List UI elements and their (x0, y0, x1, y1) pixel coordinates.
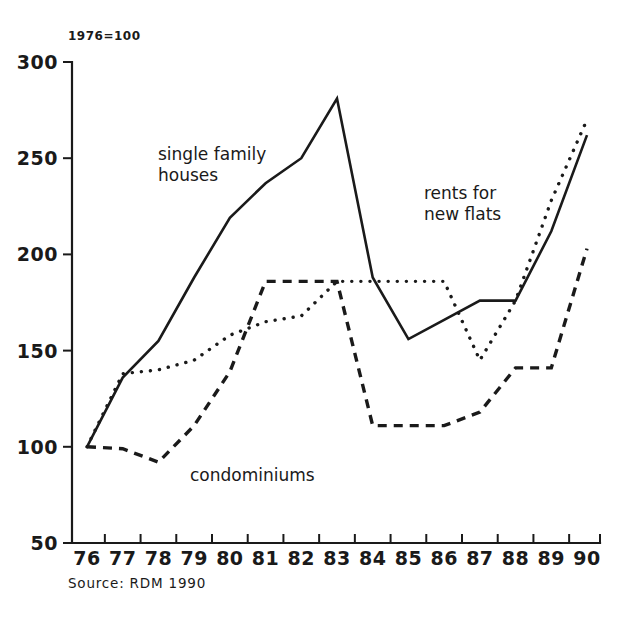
annotation-condominiums: condominiums (190, 465, 315, 485)
x-axis-tick-label: 88 (502, 547, 529, 569)
x-axis-tick-label: 76 (73, 547, 100, 569)
x-axis-tick-label: 84 (359, 547, 386, 569)
x-axis-tick-label: 90 (573, 547, 600, 569)
y-axis-tick-labels: 50100150200250300 (17, 51, 58, 554)
annotation-single-family-houses-line1: single family (158, 144, 266, 164)
x-axis-ticks (72, 534, 600, 543)
source-label: Source: RDM 1990 (68, 575, 206, 591)
x-axis-tick-label: 83 (323, 547, 350, 569)
x-axis-tick-label: 89 (538, 547, 565, 569)
x-axis-tick-label: 78 (145, 547, 172, 569)
x-axis-tick-label: 85 (395, 547, 422, 569)
y-axis-tick-label: 200 (17, 243, 58, 265)
series-line-condominiums (87, 249, 587, 463)
y-axis-tick-label: 150 (17, 340, 58, 362)
chart-container: 1976=100 50100150200250300 7677787980818… (0, 0, 620, 621)
y-axis-tick-label: 300 (17, 51, 58, 73)
x-axis-tick-label: 87 (466, 547, 493, 569)
y-axis-tick-label: 50 (31, 532, 58, 554)
y-axis-ticks (63, 62, 72, 543)
x-axis-tick-label: 77 (109, 547, 136, 569)
annotation-rents-for-new-flats-line1: rents for (424, 183, 496, 203)
x-axis-tick-label: 81 (252, 547, 279, 569)
y-axis-tick-label: 250 (17, 147, 58, 169)
x-axis-tick-label: 86 (430, 547, 457, 569)
annotation-rents-for-new-flats-line2: new flats (424, 204, 501, 224)
x-axis-tick-label: 79 (180, 547, 207, 569)
y-axis-tick-label: 100 (17, 436, 58, 458)
unit-note-label: 1976=100 (68, 29, 141, 43)
line-chart: 1976=100 50100150200250300 7677787980818… (0, 0, 620, 621)
annotation-single-family-houses-line2: houses (158, 165, 218, 185)
x-axis-tick-label: 80 (216, 547, 243, 569)
x-axis-tick-label: 82 (288, 547, 315, 569)
x-axis-tick-labels: 767778798081828384858687888990 (73, 547, 600, 569)
